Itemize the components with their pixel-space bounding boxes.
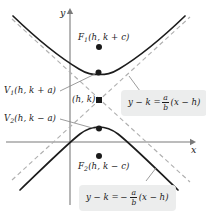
upper-eq-denominator: b: [162, 103, 169, 111]
focus-2-label: F2(h, k − c): [78, 162, 130, 172]
leader-vertex-2: [60, 119, 96, 129]
leader-equation-lower: [146, 168, 156, 181]
lower-eq-numerator: a: [131, 189, 138, 197]
focus-2-coords: (h, k − c): [88, 161, 129, 171]
y-axis-label: y: [60, 8, 65, 18]
lower-eq-fraction: a b: [130, 189, 137, 206]
hyperbola-figure: y x F1(h, k + c) V1(h, k + a) (h, k) V2(…: [0, 0, 206, 215]
lower-eq-sign: −: [119, 193, 129, 202]
focus-1-label: F1(h, k + c): [78, 33, 130, 43]
vertex-1-label: V1(h, k + a): [4, 86, 56, 96]
upper-eq-fraction: a b: [162, 94, 169, 111]
point-vertex-2: [96, 126, 102, 132]
upper-eq-lhs: y − k =: [128, 98, 161, 107]
vertex-1-coords: (h, k + a): [14, 85, 56, 95]
point-center: [96, 97, 102, 103]
y-axis-arrow: [67, 8, 73, 14]
vertex-2-coords: (h, k − a): [14, 113, 56, 123]
x-axis-label: x: [191, 145, 196, 155]
asymptote-equation-upper: y − k = a b (x − h): [121, 90, 206, 116]
leader-vertex-1: [60, 74, 95, 91]
upper-eq-numerator: a: [162, 94, 169, 102]
lower-eq-rhs: (x − h): [139, 193, 169, 202]
lower-eq-denominator: b: [130, 198, 137, 206]
point-focus-2: [96, 153, 102, 159]
focus-1-coords: (h, k + c): [88, 32, 129, 42]
point-vertex-1: [96, 70, 102, 76]
asymptote-equation-lower: y − k = − a b (x − h): [79, 185, 176, 211]
lower-eq-lhs: y − k =: [86, 193, 119, 202]
upper-eq-rhs: (x − h): [171, 98, 201, 107]
vertex-2-label: V2(h, k − a): [4, 114, 56, 124]
center-label: (h, k): [72, 95, 96, 104]
leader-equation-upper: [129, 76, 140, 91]
point-focus-1: [96, 44, 102, 50]
